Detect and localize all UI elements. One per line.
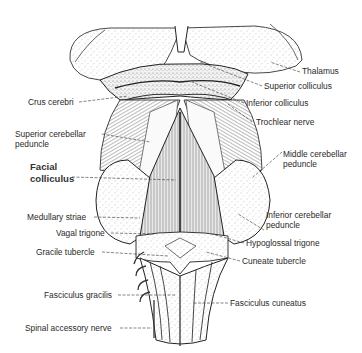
label-vagal-trigone: Vagal trigone	[56, 228, 105, 238]
label-superior-colliculus: Superior colliculus	[264, 81, 332, 91]
label-cuneate-tubercle: Cuneate tubercle	[242, 256, 306, 266]
label-gracile-tubercle: Gracile tubercle	[36, 247, 95, 257]
label-line1: Inferior cerebellar	[266, 210, 331, 220]
label-inferior-colliculus: Inferior colliculus	[246, 98, 308, 108]
label-fasciculus-cuneatus: Fasciculus cuneatus	[230, 298, 306, 308]
label-line2: peduncle	[283, 159, 347, 169]
label-hypoglossal-trigone: Hypoglossal trigone	[246, 238, 320, 248]
label-crus-cerebri: Crus cerebri	[28, 97, 74, 107]
label-line2: peduncle	[15, 139, 86, 149]
label-trochlear-nerve: Trochlear nerve	[256, 117, 314, 127]
label-fasciculus-gracilis: Fasciculus gracilis	[44, 290, 112, 300]
label-line2: peduncle	[266, 220, 331, 230]
label-line1: Middle cerebellar	[283, 149, 347, 159]
label-superior-cerebellar-peduncle: Superior cerebellar peduncle	[15, 129, 86, 149]
label-facial-colliculus: Facial colliculus	[30, 161, 74, 184]
label-line1: Facial	[30, 161, 74, 173]
label-medullary-striae: Medullary striae	[27, 212, 86, 222]
label-thalamus: Thalamus	[302, 66, 339, 76]
spinal-cord-shape	[140, 258, 228, 346]
label-spinal-accessory-nerve: Spinal accessory nerve	[25, 323, 112, 333]
label-inferior-cerebellar-peduncle: Inferior cerebellar peduncle	[266, 210, 331, 230]
label-line1: Superior cerebellar	[15, 129, 86, 139]
brainstem-diagram: Thalamus Superior colliculus Inferior co…	[0, 0, 362, 353]
label-middle-cerebellar-peduncle: Middle cerebellar peduncle	[283, 149, 347, 169]
label-line2: colliculus	[30, 173, 74, 185]
